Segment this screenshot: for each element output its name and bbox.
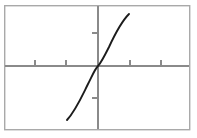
plot-canvas: [0, 0, 197, 138]
graph-figure: [0, 0, 197, 138]
